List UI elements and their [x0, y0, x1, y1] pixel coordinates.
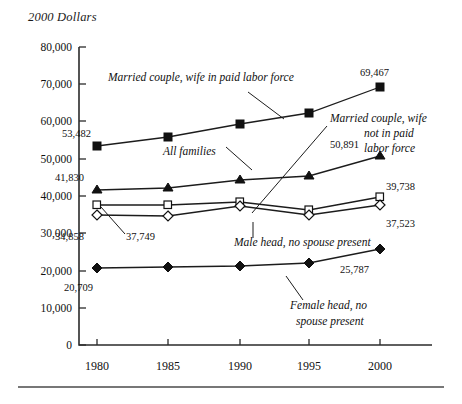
data-point-marker [375, 200, 385, 210]
y-tick-label: 80,000 [40, 41, 72, 54]
x-tick-label: 2000 [368, 359, 392, 373]
series-married-wife-not-paid [92, 151, 385, 193]
annotation-male-head: Male head, no spouse present [233, 236, 371, 249]
y-tick-label: 50,000 [40, 153, 72, 166]
data-point-marker [163, 262, 173, 272]
data-point-marker [376, 193, 384, 201]
value-label-37749: 37,749 [126, 231, 155, 242]
x-tick-label: 1980 [85, 359, 109, 373]
x-axis-ticks [97, 339, 380, 345]
annotation-married-wife-not-paid-line1: Married couple, wife [329, 112, 427, 125]
data-point-marker [235, 261, 245, 271]
x-tick-label: 1995 [297, 359, 321, 373]
data-point-marker [93, 201, 101, 209]
value-label-34858: 34,858 [55, 231, 84, 242]
x-axis-tick-labels: 1980 1985 1990 1995 2000 [85, 359, 392, 373]
y-tick-label: 40,000 [40, 190, 72, 203]
x-tick-label: 1990 [228, 359, 252, 373]
data-point-marker [304, 258, 314, 268]
y-axis-ticks [79, 47, 86, 345]
value-label-25787: 25,787 [340, 264, 369, 275]
y-axis-tick-labels: 80,000 70,000 60,000 50,000 40,000 30,00… [40, 41, 72, 351]
data-point-marker [376, 83, 384, 91]
annotation-female-head-line2: spouse present [296, 315, 364, 328]
value-label-50891: 50,891 [330, 139, 359, 150]
annotation-married-wife-not-paid-line3: labor force [364, 142, 415, 155]
data-point-marker [164, 133, 172, 141]
chart-figure: 2000 Dollars 80,000 70,000 60,000 50,000… [0, 0, 462, 404]
chart-canvas: 80,000 70,000 60,000 50,000 40,000 30,00… [0, 0, 462, 404]
value-label-69467: 69,467 [360, 67, 389, 78]
data-point-marker [305, 109, 313, 117]
data-point-marker [375, 244, 385, 254]
y-tick-label: 10,000 [40, 302, 72, 315]
data-point-marker [235, 175, 245, 183]
data-point-marker [164, 201, 172, 209]
x-tick-label: 1985 [156, 359, 180, 373]
data-point-marker [236, 120, 244, 128]
data-point-marker [92, 210, 102, 220]
series-male-head [92, 200, 385, 221]
data-point-marker [93, 142, 101, 150]
y-tick-label: 60,000 [40, 115, 72, 128]
y-tick-label: 70,000 [40, 78, 72, 91]
annotation-married-wife-paid: Married couple, wife in paid labor force [107, 71, 294, 84]
value-label-39738: 39,738 [386, 181, 415, 192]
value-label-37523: 37,523 [386, 218, 415, 229]
value-label-20709: 20,709 [64, 282, 93, 293]
y-tick-label: 0 [66, 339, 72, 351]
annotation-married-wife-not-paid-line2: not in paid [364, 127, 414, 140]
data-point-marker [92, 263, 102, 273]
value-label-41830: 41,830 [55, 172, 84, 183]
data-point-marker [92, 185, 102, 193]
y-tick-label: 20,000 [40, 265, 72, 278]
value-label-53482: 53,482 [62, 128, 91, 139]
annotation-all-families: All families [162, 145, 216, 158]
data-point-marker [163, 211, 173, 221]
annotation-female-head-line1: Female head, no [289, 299, 367, 312]
